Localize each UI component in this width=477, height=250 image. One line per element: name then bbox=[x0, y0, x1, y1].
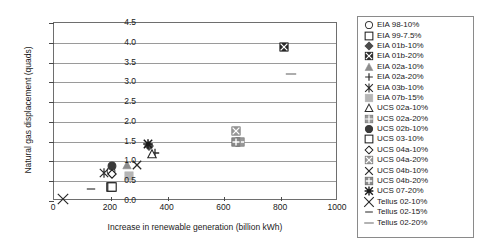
legend-item-label: EIA 02a-10% bbox=[377, 63, 424, 71]
x-axis-tick-label: 400 bbox=[147, 203, 187, 212]
legend-item-label: EIA 01b-10% bbox=[377, 42, 424, 50]
legend-item-label: Tellus 02-20% bbox=[377, 219, 427, 227]
y-axis-title: Natural gas displacement (quads) bbox=[23, 20, 33, 200]
y-axis-tick bbox=[49, 142, 54, 143]
legend-item-label: EIA 07b-15% bbox=[377, 94, 424, 102]
y-axis-tick bbox=[49, 43, 54, 44]
legend-item-label: EIA 01b-20% bbox=[377, 52, 424, 60]
y-axis-tick bbox=[49, 63, 54, 64]
legend-item-label: UCS 04a-20% bbox=[377, 156, 428, 164]
x-axis-title: Increase in renewable generation (billio… bbox=[53, 222, 337, 232]
x-axis-tick bbox=[168, 197, 169, 201]
legend-item-label: UCS 04a-10% bbox=[377, 146, 428, 154]
y-axis-tick-label: 3.5 bbox=[96, 58, 136, 67]
legend-item-label: Tellus 02-15% bbox=[377, 208, 427, 216]
legend-item-label: UCS 04b-10% bbox=[377, 167, 428, 175]
y-axis-tick bbox=[49, 102, 54, 103]
data-point bbox=[141, 137, 155, 151]
y-axis-tick bbox=[49, 122, 54, 123]
legend-item-label: UCS 03-10% bbox=[377, 135, 424, 143]
legend-item-label: EIA 02a-20% bbox=[377, 73, 424, 81]
data-point bbox=[284, 67, 298, 81]
legend-item-label: UCS 02b-10% bbox=[377, 125, 428, 133]
y-axis-tick-label: 1.0 bbox=[96, 156, 136, 165]
legend-marker-icon bbox=[361, 218, 377, 228]
y-axis-tick-label: 2.5 bbox=[96, 97, 136, 106]
y-axis-tick bbox=[49, 181, 54, 182]
legend-item-label: EIA 98-10% bbox=[377, 21, 419, 29]
y-axis-tick-label: 4.0 bbox=[96, 38, 136, 47]
legend-item-label: EIA 03b-10% bbox=[377, 84, 424, 92]
data-point bbox=[277, 40, 291, 54]
x-axis-tick-label: 0 bbox=[33, 203, 73, 212]
x-axis-tick-label: 200 bbox=[90, 203, 130, 212]
chart-container: Natural gas displacement (quads) Increas… bbox=[0, 0, 477, 250]
y-axis-tick-label: 0.5 bbox=[96, 176, 136, 185]
legend-item-label: UCS 07-20% bbox=[377, 187, 424, 195]
data-point bbox=[229, 135, 243, 149]
y-axis-tick bbox=[49, 23, 54, 24]
x-axis-tick-label: 1000 bbox=[317, 203, 357, 212]
x-axis-tick-label: 800 bbox=[260, 203, 300, 212]
legend-item-label: UCS 04b-20% bbox=[377, 177, 428, 185]
plot-area bbox=[53, 22, 337, 200]
x-axis-tick bbox=[224, 197, 225, 201]
y-axis-tick-label: 2.0 bbox=[96, 117, 136, 126]
legend-item[interactable]: Tellus 02-20% bbox=[358, 217, 473, 227]
legend-item-label: UCS 02a-10% bbox=[377, 104, 428, 112]
legend-item-label: UCS 02a-20% bbox=[377, 115, 428, 123]
y-axis-tick bbox=[49, 82, 54, 83]
y-axis-tick bbox=[49, 161, 54, 162]
legend-item-label: Tellus 02-10% bbox=[377, 198, 427, 206]
x-axis-tick-label: 600 bbox=[203, 203, 243, 212]
y-axis-tick-label: 3.0 bbox=[96, 77, 136, 86]
legend-item-label: EIA 99-7.5% bbox=[377, 32, 421, 40]
y-axis-tick-label: 4.5 bbox=[96, 18, 136, 27]
legend: EIA 98-10%EIA 99-7.5%EIA 01b-10%EIA 01b-… bbox=[357, 16, 474, 238]
x-axis-tick bbox=[281, 197, 282, 201]
y-axis-tick-label: 1.5 bbox=[96, 137, 136, 146]
